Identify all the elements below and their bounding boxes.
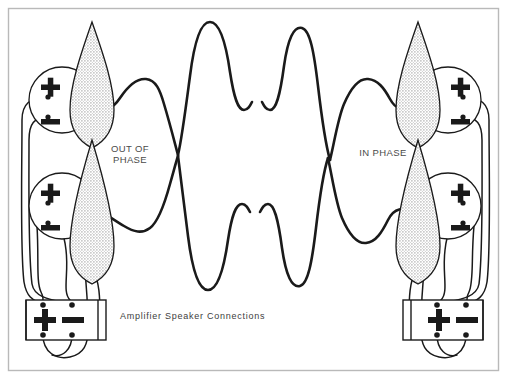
amplifier-terminal-dot[interactable] <box>69 332 75 338</box>
waveform-lower-center <box>178 156 250 290</box>
speaker-cone <box>70 22 114 148</box>
plus-bar-v <box>458 184 464 203</box>
minus-bar <box>451 225 470 231</box>
amplifier-terminal-dot[interactable] <box>40 302 46 308</box>
amplifier-terminal-dot[interactable] <box>463 332 469 338</box>
amplifier-terminal-dot[interactable] <box>463 302 469 308</box>
speaker-top-left[interactable] <box>29 22 114 148</box>
amplifier-terminal-dot[interactable] <box>434 332 440 338</box>
waveform-upper-center-2 <box>262 28 330 160</box>
speaker-bottom-left[interactable] <box>29 140 114 284</box>
waveform-upper-center <box>178 22 252 155</box>
terminal-dot-minus[interactable] <box>460 114 465 119</box>
minus-bar <box>451 119 470 125</box>
terminal-dot-plus[interactable] <box>45 94 50 99</box>
speaker-phase-diagram: OUT OFPHASE IN PHASE Amplifier Speaker C… <box>0 0 507 379</box>
minus-bar <box>41 225 60 231</box>
terminal-dot-plus[interactable] <box>460 94 465 99</box>
minus-bar <box>41 119 60 125</box>
plus-bar-v <box>42 309 48 331</box>
plus-bar-v <box>48 78 54 97</box>
terminal-dot-minus[interactable] <box>45 220 50 225</box>
waveform-lower-center-2 <box>260 158 328 286</box>
terminal-dot-plus[interactable] <box>45 200 50 205</box>
speaker-cone <box>396 140 440 284</box>
terminal-dot-minus[interactable] <box>45 114 50 119</box>
speaker-top-right[interactable] <box>396 22 481 148</box>
diagram-canvas <box>0 0 507 379</box>
speaker-cone <box>396 22 440 148</box>
plus-bar-v <box>48 184 54 203</box>
amplifier-terminal-dot[interactable] <box>434 302 440 308</box>
minus-bar <box>62 317 84 323</box>
minus-bar <box>456 317 478 323</box>
speaker-cone <box>70 140 114 284</box>
amplifier-terminal-dot[interactable] <box>40 332 46 338</box>
amplifier-right[interactable] <box>403 300 483 340</box>
speaker-bottom-right[interactable] <box>396 140 481 284</box>
plus-bar-v <box>436 309 442 331</box>
terminal-dot-minus[interactable] <box>460 220 465 225</box>
terminal-dot-plus[interactable] <box>460 200 465 205</box>
amplifier-left[interactable] <box>26 300 106 340</box>
plus-bar-v <box>458 78 464 97</box>
amplifier-terminal-dot[interactable] <box>69 302 75 308</box>
